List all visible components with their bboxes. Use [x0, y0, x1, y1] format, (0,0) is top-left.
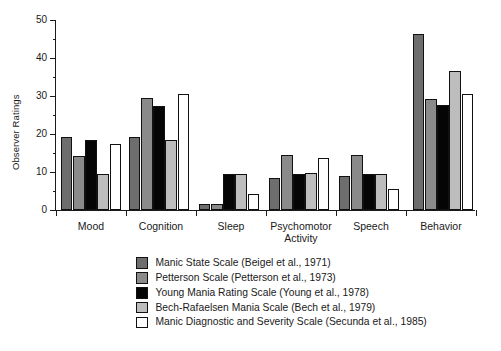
legend-swatch [136, 257, 148, 269]
legend-label: Manic Diagnostic and Severity Scale (Sec… [156, 316, 427, 328]
legend-label: Manic State Scale (Beigel et al., 1971) [156, 257, 331, 269]
bar[interactable] [235, 174, 247, 210]
bar[interactable] [141, 98, 153, 210]
bar[interactable] [211, 204, 223, 210]
bars [126, 20, 196, 210]
x-axis-tick-mark [266, 210, 267, 216]
bar-group-cognition: Cognition [126, 20, 196, 210]
bar[interactable] [85, 140, 97, 210]
bar[interactable] [110, 144, 122, 210]
bar[interactable] [129, 137, 141, 210]
bars [196, 20, 266, 210]
y-axis-tick-label: 40 [7, 51, 47, 64]
bar-group-psychomotor-activity: PsychomotorActivity [266, 20, 336, 210]
bar[interactable] [351, 155, 363, 210]
legend-label: Young Mania Rating Scale (Young et al., … [156, 287, 369, 299]
y-axis-title: Observer Ratings [0, 0, 9, 58]
bar[interactable] [223, 174, 235, 210]
bar[interactable] [437, 105, 449, 210]
bars [406, 20, 476, 210]
bar-group-mood: Mood [56, 20, 126, 210]
x-axis-tick-mark [476, 210, 477, 216]
bar-group-behavior: Behavior [406, 20, 476, 210]
chart-legend: Manic State Scale (Beigel et al., 1971)P… [136, 257, 427, 329]
x-axis-label: Behavior [381, 220, 501, 232]
bar[interactable] [61, 137, 73, 210]
legend-swatch [136, 317, 148, 329]
legend-label: Petterson Scale (Petterson et al., 1973) [156, 272, 336, 284]
x-axis-tick-mark [56, 210, 57, 216]
bar[interactable] [375, 174, 387, 210]
x-axis-tick-mark [336, 210, 337, 216]
bar[interactable] [318, 158, 330, 210]
bar-group-speech: Speech [336, 20, 406, 210]
bar[interactable] [269, 178, 281, 210]
bar[interactable] [388, 189, 400, 210]
bar[interactable] [462, 94, 474, 211]
bar[interactable] [363, 174, 375, 210]
bar[interactable] [199, 204, 211, 210]
bar[interactable] [165, 140, 177, 210]
bar[interactable] [281, 155, 293, 210]
legend-swatch [136, 272, 148, 284]
legend-swatch [136, 302, 148, 314]
x-axis-tick-mark [196, 210, 197, 216]
bar[interactable] [425, 99, 437, 210]
plot-area: 01020304050 MoodCognitionSleepPsychomoto… [55, 20, 475, 211]
x-axis-label-line: Behavior [381, 220, 501, 232]
y-axis-tick-label: 20 [7, 127, 47, 140]
legend-swatch [136, 287, 148, 299]
bar[interactable] [73, 156, 85, 210]
bar[interactable] [97, 174, 109, 210]
y-axis-tick-label: 50 [7, 13, 47, 26]
legend-item[interactable]: Manic State Scale (Beigel et al., 1971) [136, 257, 427, 269]
y-axis-tick-label: 0 [7, 203, 47, 216]
bars [266, 20, 336, 210]
bar[interactable] [305, 173, 317, 210]
x-axis-tick-mark [126, 210, 127, 216]
y-axis-tick-label: 30 [7, 89, 47, 102]
bar-group-sleep: Sleep [196, 20, 266, 210]
bar[interactable] [413, 34, 425, 210]
bars [336, 20, 406, 210]
y-axis-tick-label: 10 [7, 165, 47, 178]
bar[interactable] [153, 106, 165, 210]
legend-item[interactable]: Young Mania Rating Scale (Young et al., … [136, 287, 427, 299]
bar[interactable] [248, 194, 260, 210]
bar-chart-figure: Observer Ratings 01020304050 MoodCogniti… [0, 0, 501, 351]
bar[interactable] [449, 71, 461, 210]
bars [56, 20, 126, 210]
bar[interactable] [293, 174, 305, 210]
x-axis-label-line: Activity [241, 232, 361, 244]
legend-label: Bech-Rafaelsen Mania Scale (Bech et al.,… [156, 302, 376, 314]
bar[interactable] [339, 176, 351, 210]
legend-item[interactable]: Petterson Scale (Petterson et al., 1973) [136, 272, 427, 284]
bar[interactable] [178, 94, 190, 210]
x-axis-tick-mark [406, 210, 407, 216]
legend-item[interactable]: Manic Diagnostic and Severity Scale (Sec… [136, 316, 427, 328]
legend-item[interactable]: Bech-Rafaelsen Mania Scale (Bech et al.,… [136, 301, 427, 313]
